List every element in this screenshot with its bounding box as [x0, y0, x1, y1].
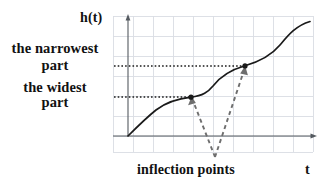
inflection-point-marker-2	[242, 63, 247, 68]
annotation-widest-line2: part	[0, 95, 110, 110]
annotation-narrowest-line1: the narrowest	[0, 41, 110, 56]
annotation-widest-line1-clip: the widest	[0, 80, 110, 92]
inflection-point-marker-1	[188, 95, 193, 100]
annotation-narrowest-part: the narrowest part	[0, 41, 110, 72]
y-axis-label: h(t)	[80, 11, 102, 25]
x-axis-arrowhead	[311, 134, 318, 139]
x-axis-label: t	[305, 163, 310, 177]
inflection-points-label: inflection points	[137, 163, 235, 177]
annotation-widest-line1: the widest	[23, 80, 86, 92]
annotation-widest-part: the widest part	[0, 80, 110, 110]
annotation-narrowest-line2: part	[0, 58, 110, 73]
